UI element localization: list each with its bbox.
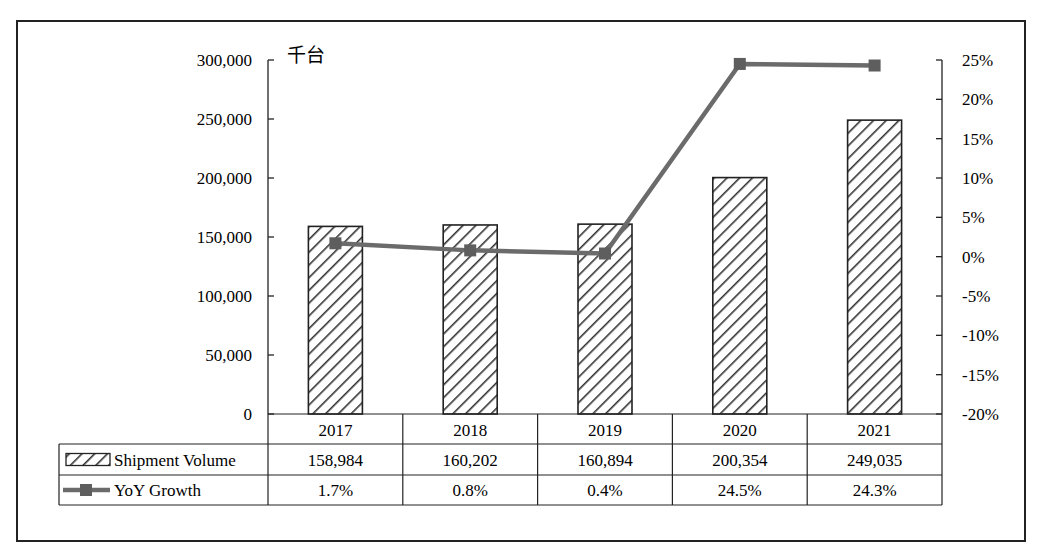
table-cell: 158,984 <box>308 451 364 470</box>
bar-2021 <box>848 120 902 414</box>
table-cell: 160,894 <box>577 451 633 470</box>
marker-2017 <box>329 237 341 249</box>
marker-2020 <box>734 58 746 70</box>
table-cell: 249,035 <box>847 451 902 470</box>
x-axis-category-label: 2020 <box>723 421 757 440</box>
data-table: 20172018201920202021158,984160,202160,89… <box>59 414 942 505</box>
right-axis-tick-label: -5% <box>962 287 990 306</box>
marker-2018 <box>464 244 476 256</box>
table-cell: 24.3% <box>853 481 897 500</box>
left-axis-tick-label: 0 <box>244 405 253 424</box>
right-axis-tick-label: 5% <box>962 208 985 227</box>
table-cell: 0.8% <box>452 481 487 500</box>
bar-series-shipment-volume <box>308 120 901 414</box>
combo-chart: 300,000250,000200,000150,000100,00050,00… <box>0 0 1041 554</box>
x-axis-category-label: 2021 <box>858 421 892 440</box>
left-axis-tick-label: 100,000 <box>197 287 252 306</box>
right-axis-tick-label: 0% <box>962 248 985 267</box>
legend-key-bar-icon <box>66 454 110 466</box>
legend-label: Shipment Volume <box>114 451 236 470</box>
table-cell: 160,202 <box>443 451 498 470</box>
right-axis-tick-label: 25% <box>962 51 993 70</box>
x-axis-category-label: 2017 <box>318 421 353 440</box>
unit-label: 千台 <box>287 45 325 66</box>
x-axis-category-label: 2018 <box>453 421 487 440</box>
bar-2020 <box>713 178 767 414</box>
table-cell: 200,354 <box>712 451 768 470</box>
left-axis-tick-label: 50,000 <box>205 346 252 365</box>
marker-2019 <box>599 248 611 260</box>
bar-2017 <box>308 226 362 414</box>
marker-2021 <box>869 60 881 72</box>
right-axis-tick-label: -15% <box>962 366 999 385</box>
right-axis-tick-label: 15% <box>962 130 993 149</box>
right-axis-tick-label: 10% <box>962 169 993 188</box>
legend-label: YoY Growth <box>114 481 201 500</box>
left-axis-tick-label: 200,000 <box>197 169 252 188</box>
right-axis-tick-label: -20% <box>962 405 999 424</box>
left-axis-tick-label: 300,000 <box>197 51 252 70</box>
right-axis-tick-label: 20% <box>962 90 993 109</box>
x-axis-category-label: 2019 <box>588 421 622 440</box>
table-cell: 24.5% <box>718 481 762 500</box>
left-axis-tick-label: 250,000 <box>197 110 252 129</box>
table-cell: 0.4% <box>587 481 622 500</box>
right-axis-tick-label: -10% <box>962 326 999 345</box>
left-axis-tick-label: 150,000 <box>197 228 252 247</box>
table-cell: 1.7% <box>318 481 353 500</box>
